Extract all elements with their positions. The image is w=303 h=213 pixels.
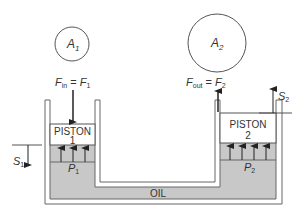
- piston-2-number: 2: [245, 130, 251, 141]
- force-out-label: Fout = F2: [186, 76, 226, 89]
- piston-1: PISTON 1: [50, 124, 95, 146]
- area-2-label: A2: [210, 36, 224, 52]
- displacement-1-indicator: S1: [12, 145, 42, 168]
- displacement-2-label: S2: [278, 90, 289, 103]
- displacement-1-label: S1: [13, 155, 24, 168]
- piston-2: PISTON 2: [220, 113, 276, 143]
- area-1-label: A1: [66, 37, 79, 53]
- piston-1-number: 1: [70, 135, 76, 146]
- force-in-label: Fin = F1: [55, 76, 90, 89]
- piston-2-label: PISTON: [229, 119, 266, 130]
- hydraulic-press-diagram: A1 A2 Fin = F1 Fout = F2 PISTON 1 P: [0, 0, 303, 213]
- area-2-circle: A2: [188, 14, 246, 72]
- area-1-circle: A1: [55, 27, 89, 61]
- oil-label: OIL: [150, 188, 167, 199]
